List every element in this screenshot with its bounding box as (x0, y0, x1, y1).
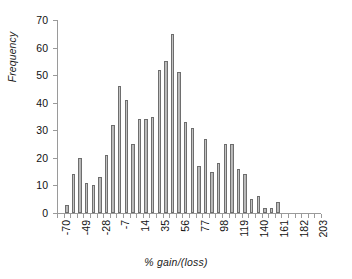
x-tick (97, 214, 98, 218)
x-tick (169, 214, 170, 218)
x-tick (70, 214, 71, 218)
bar (92, 185, 95, 213)
x-tick-label: 77 (200, 220, 211, 232)
bar (125, 100, 128, 213)
y-axis-line (57, 20, 58, 214)
x-tick (308, 214, 309, 218)
x-tick (321, 214, 322, 218)
bar (197, 166, 200, 213)
histogram-chart: Frequency 010203040506070 -70-49-28-7143… (0, 0, 352, 279)
x-tick-label: 140 (259, 220, 270, 238)
x-tick (136, 214, 137, 218)
x-tick-label: -7 (120, 220, 131, 229)
bar (217, 163, 220, 213)
bar (276, 202, 279, 213)
x-tick (163, 214, 164, 218)
y-tick-label: 0 (42, 208, 48, 219)
bar (131, 144, 134, 213)
x-tick (314, 214, 315, 218)
x-tick (268, 214, 269, 218)
y-tick-label: 30 (36, 125, 48, 136)
bar (171, 34, 174, 213)
x-tick (189, 214, 190, 218)
x-tick (275, 214, 276, 218)
x-tick (123, 214, 124, 218)
y-tick-label: 60 (36, 42, 48, 53)
x-tick (156, 214, 157, 218)
x-axis-title: % gain/(loss) (0, 256, 352, 268)
bar (111, 125, 114, 213)
x-tick (196, 214, 197, 218)
x-tick (248, 214, 249, 218)
bar (65, 205, 68, 213)
bar (191, 128, 194, 213)
bar (204, 139, 207, 213)
bar (72, 174, 75, 213)
x-tick (57, 214, 58, 218)
x-tick (116, 214, 117, 218)
x-tick (130, 214, 131, 218)
x-tick (281, 214, 282, 218)
x-tick (295, 214, 296, 218)
bar (237, 169, 240, 213)
x-tick-label: 182 (299, 220, 310, 238)
x-tick (64, 214, 65, 218)
bar (105, 155, 108, 213)
x-tick-label: 14 (140, 220, 151, 232)
bar (177, 72, 180, 213)
y-tick-label: 10 (36, 180, 48, 191)
bar (230, 144, 233, 213)
x-tick-label: 161 (279, 220, 290, 238)
x-tick-label: -28 (101, 220, 112, 235)
y-tick-label: 40 (36, 97, 48, 108)
x-tick (255, 214, 256, 218)
x-tick (176, 214, 177, 218)
bar (184, 122, 187, 213)
x-tick-label: -70 (61, 220, 72, 235)
bar (270, 208, 273, 214)
x-tick (222, 214, 223, 218)
bar (263, 208, 266, 214)
x-tick (110, 214, 111, 218)
x-tick (202, 214, 203, 218)
y-tick: 50 (53, 75, 57, 76)
x-tick-label: 98 (219, 220, 230, 232)
x-tick (77, 214, 78, 218)
x-tick (83, 214, 84, 218)
x-tick-label: 203 (318, 220, 329, 238)
bar (224, 144, 227, 213)
bar (118, 86, 121, 213)
x-tick (182, 214, 183, 218)
x-tick (215, 214, 216, 218)
bar (257, 196, 260, 213)
y-tick: 70 (53, 20, 57, 21)
x-tick (242, 214, 243, 218)
x-tick (90, 214, 91, 218)
bar (158, 70, 161, 213)
bar (151, 117, 154, 214)
x-tick (103, 214, 104, 218)
x-tick (143, 214, 144, 218)
y-tick: 20 (53, 158, 57, 159)
plot-area: 010203040506070 -70-49-28-71435567798119… (57, 20, 321, 213)
bar (98, 177, 101, 213)
x-tick (229, 214, 230, 218)
x-tick-label: -49 (81, 220, 92, 235)
y-tick: 30 (53, 130, 57, 131)
bar (164, 61, 167, 213)
x-tick-label: 35 (160, 220, 171, 232)
y-tick-label: 70 (36, 15, 48, 26)
y-tick: 60 (53, 48, 57, 49)
bar (210, 172, 213, 213)
y-tick: 10 (53, 185, 57, 186)
y-tick-label: 20 (36, 153, 48, 164)
x-tick (149, 214, 150, 218)
y-axis-title: Frequency (6, 12, 18, 102)
bar (138, 119, 141, 213)
x-tick-label: 119 (239, 220, 250, 237)
bar (78, 158, 81, 213)
x-tick-label: 56 (180, 220, 191, 232)
bar (144, 119, 147, 213)
x-tick (288, 214, 289, 218)
x-tick (235, 214, 236, 218)
